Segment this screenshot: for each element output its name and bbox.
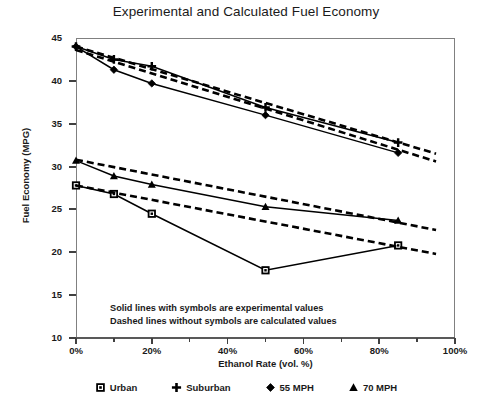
x-axis-tick-label: 20% xyxy=(127,345,177,356)
x-axis-tick-label: 100% xyxy=(430,345,480,356)
annotation-calculated: Dashed lines without symbols are calcula… xyxy=(110,316,337,326)
legend-item-70-mph[interactable]: 70 MPH xyxy=(348,382,397,393)
y-axis-tick-label: 45 xyxy=(28,32,62,43)
x-axis-tick-label: 40% xyxy=(203,345,253,356)
x-axis-tick-label: 80% xyxy=(354,345,404,356)
y-axis-tick xyxy=(69,166,76,168)
diamond-marker xyxy=(265,382,276,393)
triangle-marker xyxy=(348,382,359,393)
x-axis-tick xyxy=(303,338,305,344)
x-axis-tick-label: 0% xyxy=(51,345,101,356)
x-axis-tick-label: 60% xyxy=(278,345,328,356)
y-axis-line xyxy=(76,38,77,338)
x-axis-minor-tick xyxy=(341,338,343,342)
triangle-marker xyxy=(349,383,358,391)
square-marker xyxy=(97,384,104,391)
legend-item-label: 70 MPH xyxy=(363,382,397,393)
y-axis-tick-label: 10 xyxy=(28,332,62,343)
y-axis-tick-label: 20 xyxy=(28,246,62,257)
x-axis-title: Ethanol Rate (vol. %) xyxy=(76,358,455,369)
y-axis-tick xyxy=(69,123,76,125)
x-axis-tick xyxy=(227,338,229,344)
square-marker xyxy=(95,382,106,393)
legend-item-urban[interactable]: Urban xyxy=(95,382,137,393)
y-axis-tick-label: 25 xyxy=(28,203,62,214)
x-axis-tick xyxy=(75,338,77,344)
chart-title: Experimental and Calculated Fuel Economy xyxy=(0,4,492,19)
y-axis-title: Fuel Economy (MPG) xyxy=(20,106,31,246)
legend-item-55-mph[interactable]: 55 MPH xyxy=(265,382,314,393)
y-axis-tick xyxy=(69,80,76,82)
legend-item-label: Urban xyxy=(110,382,137,393)
legend-item-label: Suburban xyxy=(186,382,230,393)
chart-container: Experimental and Calculated Fuel Economy… xyxy=(0,0,492,408)
y-axis-tick xyxy=(69,251,76,253)
x-axis-minor-tick xyxy=(265,338,267,342)
y-axis-tick xyxy=(69,208,76,210)
annotation-experimental: Solid lines with symbols are experimenta… xyxy=(110,303,323,313)
x-axis-tick xyxy=(151,338,153,344)
x-axis-minor-tick xyxy=(416,338,418,342)
plus-marker xyxy=(172,383,181,392)
x-axis-tick xyxy=(454,338,456,344)
legend-item-label: 55 MPH xyxy=(280,382,314,393)
y-axis-tick xyxy=(69,294,76,296)
x-axis-minor-tick xyxy=(189,338,191,342)
chart-legend: UrbanSuburban55 MPH70 MPH xyxy=(0,382,492,393)
y-axis-tick-label: 30 xyxy=(28,161,62,172)
x-axis-tick xyxy=(378,338,380,344)
plus-marker xyxy=(171,382,182,393)
diamond-marker xyxy=(266,384,274,392)
plot-area-frame xyxy=(76,38,455,338)
x-axis-minor-tick xyxy=(113,338,115,342)
y-axis-tick-label: 15 xyxy=(28,289,62,300)
y-axis-tick-label: 40 xyxy=(28,75,62,86)
legend-item-suburban[interactable]: Suburban xyxy=(171,382,230,393)
y-axis-tick-label: 35 xyxy=(28,118,62,129)
